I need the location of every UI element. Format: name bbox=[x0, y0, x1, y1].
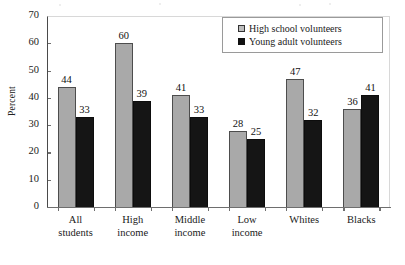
bar-group: 4433 bbox=[47, 16, 104, 207]
bar: 33 bbox=[76, 117, 94, 207]
bar: 39 bbox=[133, 101, 151, 207]
bar-value-label: 41 bbox=[365, 82, 376, 93]
bar: 28 bbox=[229, 131, 247, 207]
x-axis-tick-mark bbox=[94, 207, 95, 211]
legend-label-high-school: High school volunteers bbox=[249, 23, 342, 34]
bar-value-label: 47 bbox=[290, 66, 301, 77]
bar: 47 bbox=[286, 79, 304, 207]
x-axis-tick-mark bbox=[58, 207, 59, 211]
bar-value-label: 39 bbox=[136, 88, 147, 99]
bar-group: 4133 bbox=[161, 16, 218, 207]
legend-swatch-black-icon bbox=[238, 38, 245, 45]
legend-swatch-gray-icon bbox=[238, 25, 245, 32]
bar: 36 bbox=[343, 109, 361, 207]
bar-value-label: 36 bbox=[347, 96, 358, 107]
y-axis-tick-label: 10 bbox=[29, 173, 40, 184]
x-axis-tick-mark bbox=[286, 207, 287, 211]
bar-value-label: 44 bbox=[61, 74, 72, 85]
bar: 44 bbox=[58, 87, 76, 207]
legend-label-young-adult: Young adult volunteers bbox=[249, 36, 342, 47]
y-axis-tick-label: 40 bbox=[29, 91, 40, 102]
y-axis-tick-label: 50 bbox=[29, 64, 40, 75]
bar: 32 bbox=[304, 120, 322, 207]
x-axis-line bbox=[47, 207, 391, 208]
x-axis-tick-mark bbox=[229, 207, 230, 211]
x-axis-category-label: Blacks bbox=[333, 214, 390, 227]
y-axis-tick-label: 0 bbox=[34, 200, 39, 211]
y-axis-tick-label: 70 bbox=[29, 9, 40, 20]
x-axis-category-label: Whites bbox=[276, 214, 333, 227]
x-axis-category-label: Allstudents bbox=[47, 214, 104, 239]
x-axis-tick-mark bbox=[172, 207, 173, 211]
bar-group: 6039 bbox=[104, 16, 161, 207]
x-axis-tick-mark bbox=[265, 207, 266, 211]
y-axis-title: Percent bbox=[7, 71, 17, 131]
bar-value-label: 33 bbox=[79, 104, 90, 115]
scan-artifact bbox=[0, 2, 405, 8]
bar-chart: Percent 706050403020100 4433603941332825… bbox=[0, 0, 405, 265]
y-axis-tick-label: 30 bbox=[29, 118, 40, 129]
bar: 60 bbox=[115, 43, 133, 207]
x-axis-tick-mark bbox=[322, 207, 323, 211]
x-axis-tick-mark bbox=[115, 207, 116, 211]
x-axis-category-label: Highincome bbox=[104, 214, 161, 239]
bar: 33 bbox=[190, 117, 208, 207]
bar-value-label: 60 bbox=[118, 30, 129, 41]
x-axis-tick-mark bbox=[343, 207, 344, 211]
x-axis-tick-mark bbox=[208, 207, 209, 211]
x-axis-tick-mark bbox=[379, 207, 380, 211]
y-axis-tick-label: 60 bbox=[29, 36, 40, 47]
bar: 41 bbox=[172, 95, 190, 207]
y-axis-tick-label: 20 bbox=[29, 145, 40, 156]
bar-value-label: 41 bbox=[176, 82, 187, 93]
chart-legend: High school volunteers Young adult volun… bbox=[222, 17, 383, 53]
x-axis-category-label: Middleincome bbox=[161, 214, 218, 239]
bar-value-label: 28 bbox=[233, 118, 244, 129]
x-axis-category-label: Lowincome bbox=[219, 214, 276, 239]
bar-value-label: 33 bbox=[194, 104, 205, 115]
bar: 25 bbox=[247, 139, 265, 207]
legend-item-high-school: High school volunteers bbox=[223, 22, 382, 35]
legend-item-young-adult: Young adult volunteers bbox=[223, 35, 382, 48]
x-axis-tick-mark bbox=[151, 207, 152, 211]
bar: 41 bbox=[361, 95, 379, 207]
bar-value-label: 25 bbox=[251, 126, 262, 137]
bar-value-label: 32 bbox=[308, 107, 319, 118]
